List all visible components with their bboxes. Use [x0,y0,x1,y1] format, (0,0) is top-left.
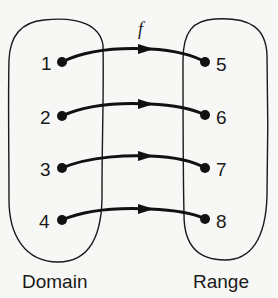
range-point-8 [200,214,210,224]
range-label: Range [193,272,249,291]
range-element-label: 6 [216,108,227,127]
domain-point-1 [57,57,67,67]
domain-point-2 [57,111,67,121]
range-point-5 [200,57,210,67]
domain-point-3 [57,163,67,173]
domain-label: Domain [22,272,87,291]
domain-element-label: 2 [40,108,51,127]
domain-element-label: 4 [39,212,50,231]
range-element-label: 8 [216,212,227,231]
range-point-7 [200,163,210,173]
domain-element-label: 1 [41,54,52,73]
domain-point-4 [57,215,67,225]
range-element-label: 7 [216,160,227,179]
function-label: f [138,20,143,39]
domain-element-label: 3 [40,160,51,179]
range-point-6 [200,110,210,120]
diagram-graphics [0,0,278,298]
domain-set-outline [9,19,104,262]
function-mapping-diagram: f 1 2 3 4 5 6 7 8 Domain Range [0,0,278,298]
range-element-label: 5 [216,55,227,74]
